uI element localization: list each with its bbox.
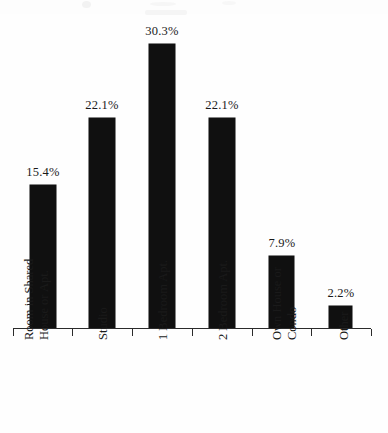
x-axis-label-own-house-or-condo: Own House or Condo — [270, 248, 300, 340]
x-axis-label-1-bedroom-apt: 1 Bedroom Apt. — [156, 260, 171, 340]
x-axis-label-line: Studio — [96, 307, 111, 340]
x-axis-label-line: Condo — [285, 248, 300, 340]
x-axis-label-line: Own House or — [270, 248, 285, 340]
bar-chart-plot-area: 15.4% 22.1% 30.3% 22.1% 7.9% 2.2% Room i… — [0, 0, 388, 433]
x-axis-label-studio: Studio — [96, 307, 111, 340]
x-axis-label-line: 2 Bedroom Apt. — [216, 260, 231, 340]
x-axis-label-room-in-shared-house-or-apt: Room in Shared House or Apt. — [22, 248, 52, 340]
x-axis-tick — [72, 329, 73, 336]
x-axis-label-other: Other — [337, 312, 352, 340]
value-label-2-bedroom-apt: 22.1% — [192, 99, 252, 112]
value-label-studio: 22.1% — [72, 99, 132, 112]
x-axis-label-line: Room in Shared — [22, 248, 37, 340]
value-label-room-in-shared-house-or-apt: 15.4% — [13, 166, 73, 179]
x-axis-label-line: House or Apt. — [37, 248, 52, 340]
x-axis-label-line: 1 Bedroom Apt. — [156, 260, 171, 340]
x-axis-label-line: Other — [337, 312, 352, 340]
x-axis-tick — [371, 329, 372, 336]
x-axis-tick — [13, 329, 14, 336]
bar-studio — [89, 118, 115, 328]
value-label-other: 2.2% — [311, 287, 371, 300]
x-axis-tick — [311, 329, 312, 336]
chart-page: 15.4% 22.1% 30.3% 22.1% 7.9% 2.2% Room i… — [0, 0, 388, 433]
x-axis-tick — [132, 329, 133, 336]
x-axis-label-2-bedroom-apt: 2 Bedroom Apt. — [216, 260, 231, 340]
x-axis-tick — [252, 329, 253, 336]
value-label-1-bedroom-apt: 30.3% — [132, 25, 192, 38]
x-axis-tick — [192, 329, 193, 336]
